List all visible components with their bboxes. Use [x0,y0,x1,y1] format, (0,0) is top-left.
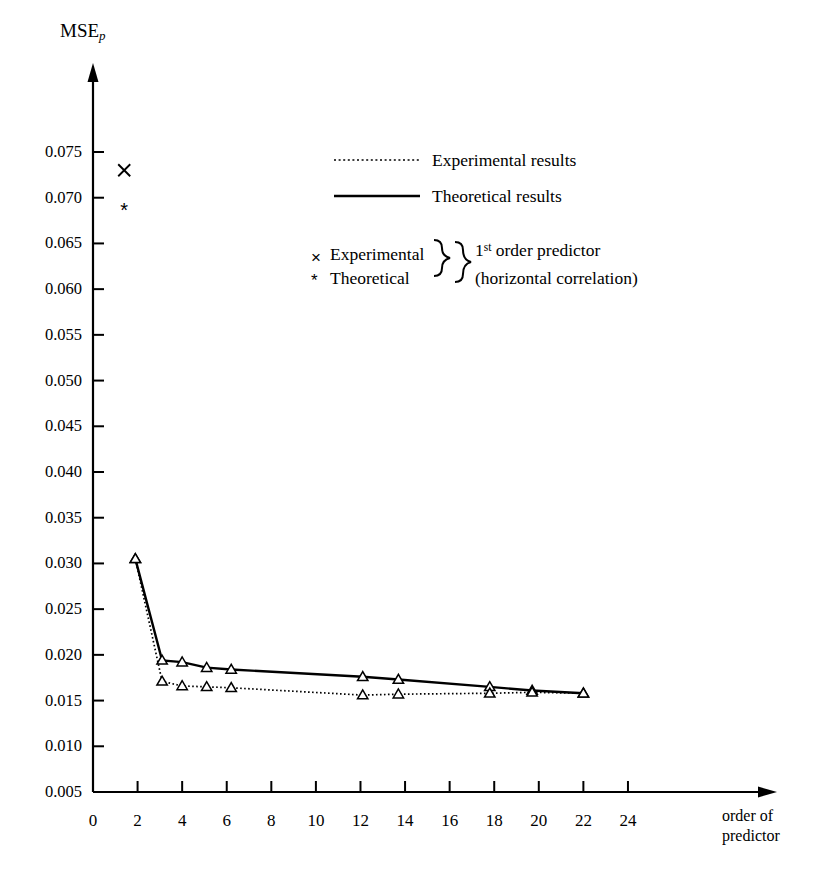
x-tick-marks [138,781,628,792]
data-point-marker-triangle [201,682,211,691]
chart-figure: MSEp 0.0050.0100.0150.0200.0250.0300.035… [0,0,830,889]
brace-upper [434,240,450,276]
series-line-solid [135,559,583,693]
brace-lower [455,242,471,282]
series-line-dotted [135,559,583,695]
data-point-marker-triangle [177,681,187,690]
data-point-marker-triangle [130,554,140,563]
legend-line-swatches [334,160,420,196]
y-tick-marks [93,152,104,792]
axis-lines [88,63,778,798]
data-point-marker-triangle [358,690,368,699]
marker-asterisk-icon: * [120,199,128,221]
legend-brace [434,240,471,282]
y-axis-arrowhead [88,63,99,82]
data-point-marker-triangle [157,676,167,685]
data-point-marker-triangle [393,689,403,698]
standalone-points-layer: * [118,164,130,221]
data-series-layer [130,554,588,699]
plot-canvas: * [0,0,830,889]
data-point-marker-triangle [226,683,236,692]
x-axis-arrowhead [758,787,777,798]
